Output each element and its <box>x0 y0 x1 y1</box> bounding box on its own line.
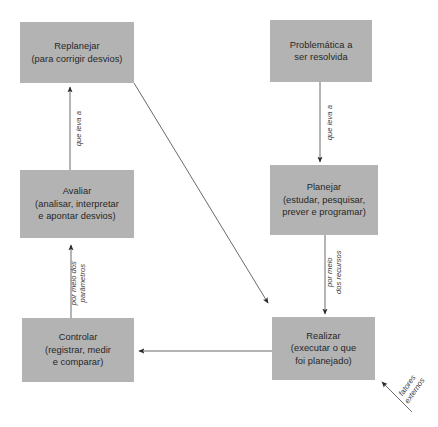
node-realizar-line-3: foi planejado) <box>295 355 352 367</box>
node-planejar-line-2: (estudar, pesquisar, <box>283 194 365 206</box>
node-replanejar[interactable]: Replanejar (para corrigir desvios) <box>20 22 134 83</box>
node-avaliar[interactable]: Avaliar (analisar, interpretar e apontar… <box>20 170 134 238</box>
edge-label-fatores-externos: fatores externos <box>391 366 430 411</box>
node-controlar-line-3: e comparar) <box>53 356 104 368</box>
edge-label-que-leva-a-left: que leva a <box>74 100 83 158</box>
edge-label-por-meio-dos-recursos: por meio dos recursos <box>325 240 343 304</box>
node-avaliar-line-3: e apontar desvios) <box>38 210 115 222</box>
node-avaliar-line-1: Avaliar <box>63 185 92 197</box>
edge-label-que-leva-a-right: que leva a <box>325 94 334 152</box>
edge-label-que-leva-a-right-line-1: que leva a <box>325 94 334 152</box>
node-problematica-line-2: ser resolvida <box>294 51 347 63</box>
node-replanejar-line-2: (para corrigir desvios) <box>31 53 122 65</box>
node-controlar[interactable]: Controlar (registrar, medir e comparar) <box>22 318 134 382</box>
edge-label-que-leva-a-left-line-1: que leva a <box>74 100 83 158</box>
edge-label-por-meio-dos-recursos-line-1: por meio <box>325 240 334 304</box>
node-planejar-line-1: Planejar <box>307 181 342 193</box>
edge-label-por-meio-dos-parametros: por meio dos parâmetros <box>69 251 87 315</box>
node-avaliar-line-2: (analisar, interpretar <box>35 198 119 210</box>
node-realizar-line-1: Realizar <box>306 330 341 342</box>
edge-label-por-meio-dos-parametros-line-1: por meio dos <box>69 251 78 315</box>
node-problematica[interactable]: Problemática a ser resolvida <box>270 20 372 82</box>
edge-replanejar-to-realizar <box>134 83 268 303</box>
node-controlar-line-1: Controlar <box>59 331 98 343</box>
diagram-canvas: Replanejar (para corrigir desvios) Probl… <box>0 0 438 427</box>
node-realizar[interactable]: Realizar (executar o que foi planejado) <box>272 317 375 380</box>
node-planejar[interactable]: Planejar (estudar, pesquisar, prever e p… <box>270 165 378 235</box>
edge-label-por-meio-dos-recursos-line-2: dos recursos <box>334 240 343 304</box>
node-planejar-line-3: prever e programar) <box>282 206 366 218</box>
node-realizar-line-2: (executar o que <box>291 342 356 354</box>
node-problematica-line-1: Problemática a <box>290 39 353 51</box>
node-replanejar-line-1: Replanejar <box>54 40 99 52</box>
node-controlar-line-2: (registrar, medir <box>45 344 111 356</box>
edge-label-por-meio-dos-parametros-line-2: parâmetros <box>78 251 87 315</box>
